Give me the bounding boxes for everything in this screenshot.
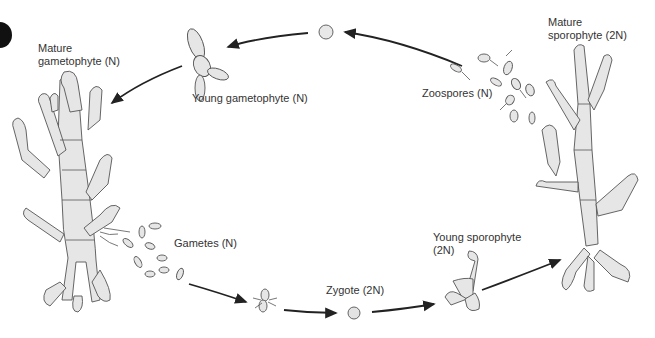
arrow-spore-to-young-gametophyte-icon — [228, 33, 308, 47]
life-cycle-diagram: Mature gametophyte (N) Young gametophyte… — [0, 0, 655, 338]
young-sporophyte-label: Young sporophyte (2N) — [433, 231, 521, 257]
gametes-label: Gametes (N) — [174, 237, 237, 250]
zygote-label: Zygote (2N) — [326, 284, 384, 297]
arrow-zygote-to-young-sporophyte-icon — [372, 304, 434, 312]
arrow-young-to-mature-gametophyte-icon — [112, 66, 182, 103]
zygote-icon — [348, 307, 360, 319]
zoospores-label: Zoospores (N) — [422, 87, 492, 100]
fusing-gametes-icon — [253, 289, 277, 312]
mature-gametophyte-icon — [13, 71, 130, 312]
gametes-icon — [100, 223, 185, 281]
mature-sporophyte-label: Mature sporophyte (2N) — [548, 16, 627, 42]
spore-icon — [319, 25, 333, 39]
section-marker-icon — [0, 22, 12, 48]
arrow-fusion-to-zygote-icon — [284, 310, 336, 313]
arrow-young-to-mature-sporophyte-icon — [482, 260, 560, 290]
young-sporophyte-icon — [445, 251, 480, 311]
mature-sporophyte-icon — [536, 45, 638, 292]
young-gametophyte-label: Young gametophyte (N) — [192, 92, 308, 105]
mature-gametophyte-label: Mature gametophyte (N) — [38, 42, 120, 68]
arrow-gametes-to-fusion-icon — [189, 284, 246, 302]
arrow-zoospores-to-spore-icon — [345, 32, 462, 66]
young-gametophyte-icon — [184, 27, 230, 101]
